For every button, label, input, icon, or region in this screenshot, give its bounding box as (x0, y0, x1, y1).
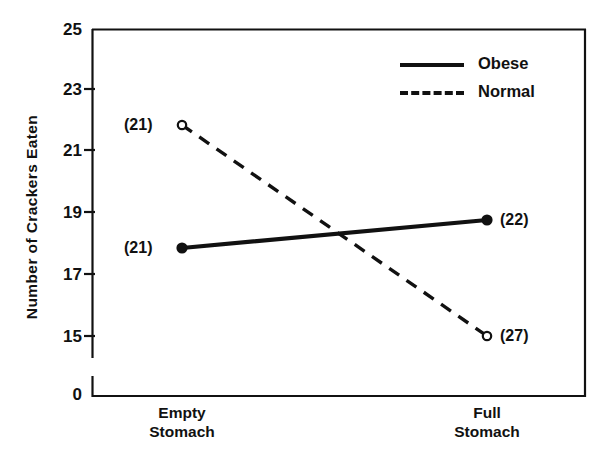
x-tick-label-empty-stomach: Empty Stomach (102, 404, 262, 442)
legend-label-obese: Obese (478, 54, 528, 73)
series-obese-point-full-stomach (482, 215, 491, 224)
y-tick-label-group: 25 23 21 19 17 15 0 (36, 0, 82, 474)
point-annotation-normal-full-stomach: (27) (500, 328, 528, 344)
series-normal-point-empty-stomach (178, 121, 186, 129)
chart-legend: Obese Normal (400, 52, 570, 108)
series-normal-point-full-stomach (483, 332, 491, 340)
legend-label-normal: Normal (478, 82, 535, 101)
x-tick-label-full-stomach-line1: Full (407, 404, 567, 423)
x-tick-label-full-stomach: Full Stomach (407, 404, 567, 442)
series-obese-line (182, 220, 487, 248)
legend-swatch-dashed-line-icon (400, 91, 464, 95)
point-annotation-normal-empty-stomach: (21) (124, 117, 152, 133)
series-normal-line (182, 125, 487, 336)
y-tick-label-25: 25 (36, 21, 82, 38)
legend-item-normal: Normal (400, 80, 570, 108)
legend-swatch-solid-line-icon (400, 63, 464, 67)
point-annotation-obese-full-stomach: (22) (500, 212, 528, 228)
series-obese-point-empty-stomach (177, 243, 186, 252)
legend-item-obese: Obese (400, 52, 570, 80)
y-tick-label-19: 19 (36, 204, 82, 221)
y-tick-label-17: 17 (36, 266, 82, 283)
y-tick-label-0: 0 (36, 386, 82, 403)
x-tick-label-full-stomach-line2: Stomach (407, 423, 567, 442)
point-annotation-obese-empty-stomach: (21) (124, 240, 152, 256)
y-tick-label-15: 15 (36, 328, 82, 345)
x-tick-label-empty-stomach-line2: Stomach (102, 423, 262, 442)
line-chart-figure: Number of Crackers Eaten 25 23 21 19 17 … (0, 0, 609, 474)
x-tick-label-empty-stomach-line1: Empty (102, 404, 262, 423)
series-obese (177, 215, 491, 252)
series-normal (178, 121, 491, 340)
y-tick-label-23: 23 (36, 81, 82, 98)
y-tick-label-21: 21 (36, 142, 82, 159)
